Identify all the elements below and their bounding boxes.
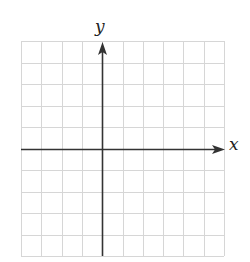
x-axis-label: x [229,136,239,153]
y-axis-label: y [95,18,105,35]
coordinate-plane [0,0,250,262]
